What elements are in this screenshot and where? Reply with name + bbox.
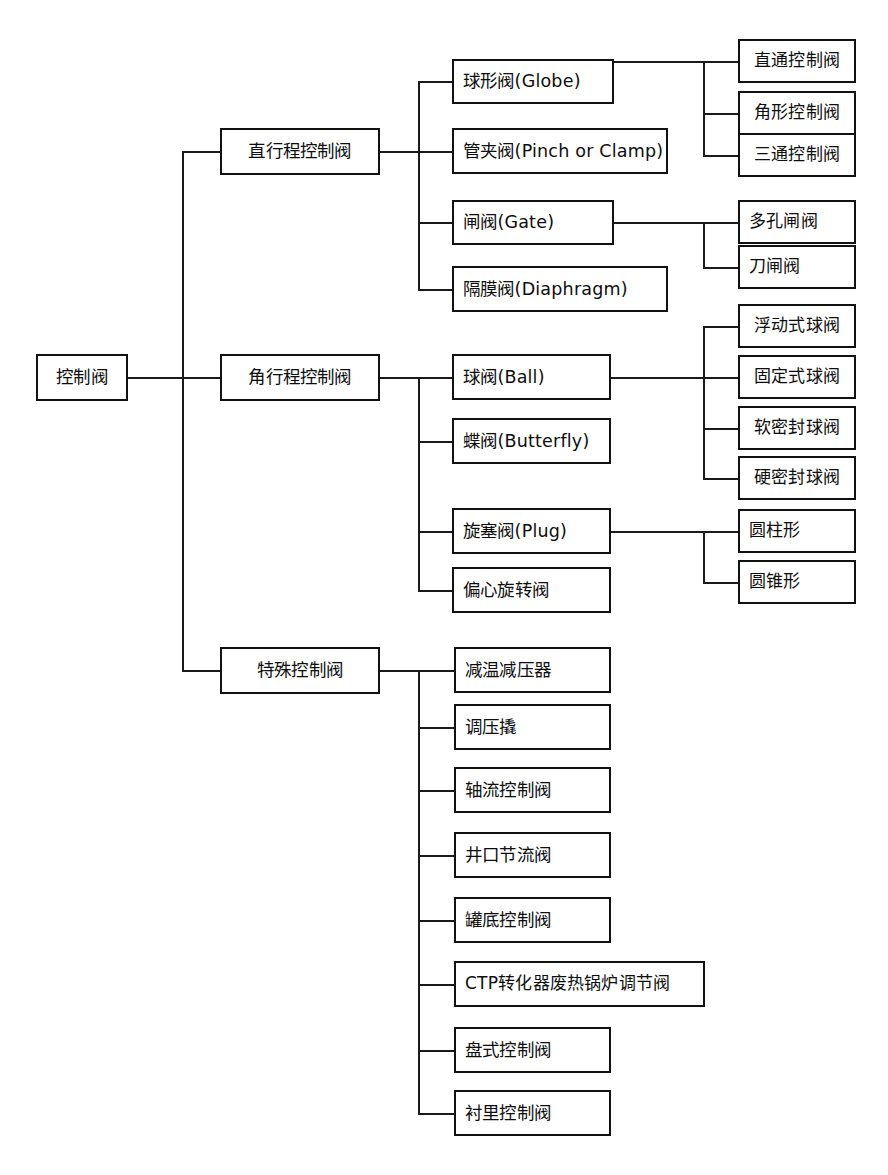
node-pinch-valve[interactable]: 管夹阀(Pinch or Clamp)	[452, 128, 668, 174]
node-globe-valve[interactable]: 球形阀(Globe)	[452, 59, 614, 104]
connector-gate-to-l4-1	[703, 222, 739, 224]
node-label: 隔膜阀(Diaphragm)	[454, 280, 666, 298]
connector-ball-to-l4-4	[703, 478, 739, 480]
node-pressure-regulating-skid[interactable]: 调压撬	[454, 704, 611, 750]
connector-globe-to-l4-3	[703, 155, 739, 157]
connector-l2-3-out	[380, 670, 420, 672]
node-trunnion-ball-valve[interactable]: 固定式球阀	[738, 355, 856, 399]
connector-globe-out	[614, 61, 704, 63]
node-multi-port-gate-valve[interactable]: 多孔闸阀	[738, 200, 856, 244]
node-label: 球阀(Ball)	[454, 368, 609, 386]
node-label: 盘式控制阀	[456, 1041, 609, 1059]
connector-l2-3-to-s4	[418, 855, 454, 857]
node-label: 角形控制阀	[740, 104, 854, 122]
connector-gate-out	[614, 222, 704, 224]
node-knife-gate-valve[interactable]: 刀闸阀	[738, 245, 856, 289]
node-special-valve[interactable]: 特殊控制阀	[220, 647, 380, 694]
connector-l2-3-to-s6	[418, 984, 454, 986]
connector-globe-to-l4-2	[703, 113, 739, 115]
node-ctp-reformer-waste-heat-boiler-valve[interactable]: CTP转化器废热锅炉调节阀	[454, 961, 705, 1007]
node-hard-seal-ball-valve[interactable]: 硬密封球阀	[738, 456, 856, 500]
node-disc-control-valve[interactable]: 盘式控制阀	[454, 1027, 611, 1073]
connector-trunk-to-l2-3	[182, 670, 222, 672]
node-label: 调压撬	[456, 718, 609, 736]
node-label: 偏心旋转阀	[454, 581, 609, 599]
node-cylindrical-plug[interactable]: 圆柱形	[738, 509, 856, 553]
node-label: 闸阀(Gate)	[454, 213, 612, 231]
connector-l2-2-to-plug	[418, 531, 454, 533]
connector-trunk-to-l2-1	[182, 151, 222, 153]
node-wellhead-throttle-valve[interactable]: 井口节流阀	[454, 832, 611, 878]
connector-l2-3-to-s3	[418, 790, 454, 792]
node-label: 特殊控制阀	[222, 661, 378, 679]
connector-globe-to-l4-1	[703, 61, 739, 63]
node-three-way-control-valve[interactable]: 三通控制阀	[738, 133, 856, 177]
connector-gate-spine	[703, 222, 705, 268]
connector-l2-2-out	[380, 377, 420, 379]
node-label: 圆柱形	[740, 522, 854, 540]
connector-plug-spine	[703, 531, 705, 583]
node-straight-through-control-valve[interactable]: 直通控制阀	[738, 39, 856, 83]
node-angle-stroke-valve[interactable]: 角行程控制阀	[220, 354, 380, 401]
connector-l2-3-to-s8	[418, 1113, 454, 1115]
connector-l2-3-to-s2	[418, 727, 454, 729]
node-conical-plug[interactable]: 圆锥形	[738, 560, 856, 604]
node-axial-flow-control-valve[interactable]: 轴流控制阀	[454, 767, 611, 813]
node-eccentric-rotary-valve[interactable]: 偏心旋转阀	[452, 567, 611, 613]
connector-trunk-vertical	[182, 151, 184, 671]
connector-l2-3-to-s7	[418, 1050, 454, 1052]
node-label: 减温减压器	[456, 661, 609, 679]
connector-l2-1-to-gate	[418, 222, 454, 224]
node-label: 球形阀(Globe)	[454, 72, 612, 90]
connector-ball-to-l4-1	[703, 326, 739, 328]
node-label: 罐底控制阀	[456, 911, 609, 929]
node-label: CTP转化器废热锅炉调节阀	[456, 975, 703, 993]
node-label: 控制阀	[38, 368, 126, 386]
connector-root-to-trunk	[128, 377, 184, 379]
connector-ball-to-l4-3	[703, 428, 739, 430]
node-gate-valve[interactable]: 闸阀(Gate)	[452, 200, 614, 245]
connector-l2-1-to-diaphragm	[418, 289, 454, 291]
connector-l2-3-to-s5	[418, 920, 454, 922]
node-diaphragm-valve[interactable]: 隔膜阀(Diaphragm)	[452, 266, 668, 312]
node-label: 多孔闸阀	[740, 213, 854, 231]
connector-l2-3-spine	[418, 670, 420, 1113]
node-label: 刀闸阀	[740, 258, 854, 276]
node-label: 直行程控制阀	[222, 142, 378, 160]
connector-globe-spine	[703, 61, 705, 156]
connector-l2-3-to-s1	[418, 670, 454, 672]
node-desuperheater-pressure-reducer[interactable]: 减温减压器	[454, 647, 611, 693]
node-label: 衬里控制阀	[456, 1104, 609, 1122]
node-label: 硬密封球阀	[740, 469, 854, 487]
node-straight-stroke-valve[interactable]: 直行程控制阀	[220, 128, 380, 175]
connector-plug-out	[611, 531, 704, 533]
connector-l2-1-to-pinch	[418, 151, 454, 153]
node-butterfly-valve[interactable]: 蝶阀(Butterfly)	[452, 418, 611, 464]
node-label: 井口节流阀	[456, 846, 609, 864]
node-floating-ball-valve[interactable]: 浮动式球阀	[738, 304, 856, 348]
node-label: 直通控制阀	[740, 52, 854, 70]
connector-ball-spine	[703, 326, 705, 479]
node-label: 软密封球阀	[740, 419, 854, 437]
connector-ball-out	[611, 377, 704, 379]
connector-l2-2-to-eccentric	[418, 590, 454, 592]
node-plug-valve[interactable]: 旋塞阀(Plug)	[452, 508, 611, 554]
node-ball-valve[interactable]: 球阀(Ball)	[452, 354, 611, 400]
node-soft-seal-ball-valve[interactable]: 软密封球阀	[738, 406, 856, 450]
connector-ball-to-l4-2	[703, 377, 739, 379]
connector-trunk-to-l2-2	[182, 377, 222, 379]
node-angle-control-valve[interactable]: 角形控制阀	[738, 91, 856, 135]
node-tank-bottom-control-valve[interactable]: 罐底控制阀	[454, 897, 611, 943]
connector-l2-1-to-globe	[418, 81, 454, 83]
node-root-control-valve[interactable]: 控制阀	[36, 354, 128, 401]
connector-plug-to-l4-1	[703, 531, 739, 533]
node-lined-control-valve[interactable]: 衬里控制阀	[454, 1090, 611, 1136]
node-label: 固定式球阀	[740, 368, 854, 386]
connector-plug-to-l4-2	[703, 582, 739, 584]
connector-l2-2-to-butterfly	[418, 441, 454, 443]
node-label: 角行程控制阀	[222, 368, 378, 386]
node-label: 蝶阀(Butterfly)	[454, 432, 609, 450]
node-label: 浮动式球阀	[740, 317, 854, 335]
connector-l2-2-to-ball	[418, 377, 454, 379]
node-label: 管夹阀(Pinch or Clamp)	[454, 142, 666, 160]
